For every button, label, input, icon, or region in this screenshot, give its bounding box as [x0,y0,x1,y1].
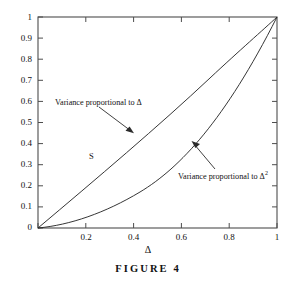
xtick-label-0_6: 0.6 [169,233,193,242]
ytick-label-0_8: 0.8 [6,55,32,64]
ytick-label-0_9: 0.9 [6,34,32,43]
xtick-label-0_4: 0.4 [122,233,146,242]
annotation-variance-delta-squared-text: Variance proportional to Δ [178,172,265,181]
annotation-exponent: 2 [265,170,268,176]
ytick-label-0_7: 0.7 [6,76,32,85]
ytick-label-0_2: 0.2 [6,181,32,190]
xtick-label-0_8: 0.8 [217,233,241,242]
figure-caption: FIGURE 4 [0,263,296,274]
annotation-variance-delta-squared: Variance proportional to Δ2 [178,173,268,181]
ytick-label-0: 0 [6,223,32,232]
plot-canvas [0,0,296,281]
xtick-label-1: 1 [265,233,289,242]
annotation-variance-delta: Variance proportional to Δ [55,99,142,107]
curve-label-s: S [89,152,94,161]
ytick-label-0_6: 0.6 [6,97,32,106]
ytick-label-1: 1 [6,13,32,22]
figure-container: 1 0.9 0.8 0.7 0.6 0.5 0.4 0.3 0.2 0.1 0 … [0,0,296,281]
ytick-label-0_3: 0.3 [6,160,32,169]
x-axis-title: Δ [138,245,158,255]
xtick-label-0_2: 0.2 [74,233,98,242]
ytick-label-0_1: 0.1 [6,202,32,211]
plot-frame [38,17,277,228]
ytick-label-0_5: 0.5 [6,118,32,127]
ytick-label-0_4: 0.4 [6,139,32,148]
